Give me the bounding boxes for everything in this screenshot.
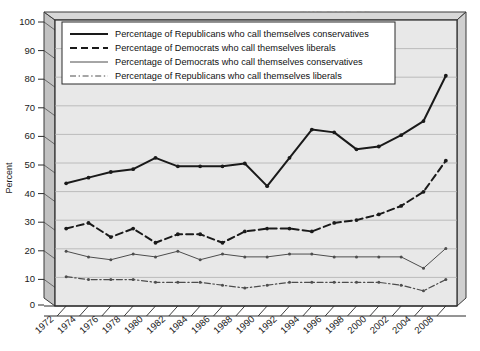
data-point — [355, 218, 359, 222]
frame-right-face — [457, 12, 466, 306]
data-point — [87, 278, 90, 281]
x-tick-label: 1992 — [256, 313, 279, 335]
data-point — [176, 281, 179, 284]
x-tick-mark — [258, 306, 267, 316]
y-tick-label: 10 — [24, 273, 35, 284]
x-tick-label: 1998 — [323, 313, 346, 335]
data-point — [154, 156, 158, 160]
x-tick-label: 1974 — [55, 313, 78, 335]
x-tick-mark — [57, 306, 66, 316]
data-point — [109, 278, 112, 281]
x-tick-label: 1988 — [211, 313, 234, 335]
data-point — [422, 289, 425, 292]
data-point — [109, 258, 112, 261]
data-point — [64, 181, 68, 185]
x-tick-mark — [392, 306, 401, 316]
data-point — [399, 133, 403, 137]
data-point — [400, 284, 403, 287]
data-point — [87, 221, 91, 225]
y-tick-label: 20 — [24, 245, 35, 256]
data-point — [87, 255, 90, 258]
x-tick-mark — [80, 306, 89, 316]
data-point — [355, 147, 359, 151]
data-point — [154, 255, 157, 258]
data-point — [221, 164, 225, 168]
x-tick-label: 1978 — [99, 313, 122, 335]
data-point — [377, 213, 381, 217]
data-point — [444, 74, 448, 78]
y-tick-label: 100 — [19, 16, 35, 27]
x-tick-label: 1982 — [144, 313, 167, 335]
data-point — [444, 278, 447, 281]
data-point — [154, 241, 158, 245]
data-point — [288, 281, 291, 284]
data-point — [154, 281, 157, 284]
data-point — [310, 230, 314, 234]
y-tick-marks — [38, 22, 44, 305]
x-tick-mark — [348, 306, 357, 316]
x-tick-label: 1996 — [300, 313, 323, 335]
data-point — [310, 281, 313, 284]
data-point — [355, 255, 358, 258]
y-tick-label: 40 — [24, 188, 35, 199]
data-point — [400, 255, 403, 258]
y-tick-label: 50 — [24, 159, 35, 170]
data-point — [422, 119, 426, 123]
x-tick-label: 1976 — [77, 313, 100, 335]
data-point — [243, 255, 246, 258]
data-point — [422, 190, 426, 194]
legend-label: Percentage of Democrats who call themsel… — [115, 43, 336, 53]
frame-left-face — [44, 12, 55, 306]
data-point — [243, 162, 247, 166]
data-point — [310, 253, 313, 256]
y-tick-labels: 100 90 80 70 60 50 40 30 20 10 0 — [19, 16, 35, 310]
data-point — [355, 281, 358, 284]
x-tick-mark — [214, 306, 223, 316]
y-tick-label: 80 — [24, 73, 35, 84]
x-tick-mark — [370, 306, 379, 316]
y-tick-label: 30 — [24, 216, 35, 227]
data-point — [266, 284, 269, 287]
data-point — [131, 167, 135, 171]
x-tick-labels: 1972197419761978198019821984198619881990… — [32, 313, 435, 335]
y-tick-label: 0 — [30, 299, 35, 310]
data-point — [198, 164, 202, 168]
x-tick-label: 1994 — [278, 313, 301, 335]
x-tick-mark — [124, 306, 133, 316]
legend-label: Percentage of Democrats who call themsel… — [115, 57, 363, 67]
data-point — [333, 281, 336, 284]
x-tick-label: 1972 — [32, 313, 55, 335]
x-tick-label: 2002 — [367, 313, 390, 335]
x-tick-label: 2004 — [390, 313, 413, 335]
x-tick-mark — [325, 306, 334, 316]
figure-container: THE RISE OF POLITICAL POLARIZATION party… — [0, 0, 480, 351]
x-tick-mark — [415, 306, 424, 316]
x-tick-mark — [102, 306, 111, 316]
x-tick-mark — [437, 306, 446, 316]
x-tick-mark — [147, 306, 156, 316]
data-point — [221, 241, 225, 245]
data-point — [109, 170, 113, 174]
data-point — [377, 281, 380, 284]
data-point — [221, 253, 224, 256]
data-point — [131, 227, 135, 231]
data-point — [332, 130, 336, 134]
legend-label: Percentage of Republicans who call thems… — [115, 71, 342, 81]
y-tick-label: 70 — [24, 102, 35, 113]
data-point — [65, 275, 68, 278]
x-tick-label: 1986 — [189, 313, 212, 335]
data-point — [266, 255, 269, 258]
data-point — [377, 255, 380, 258]
data-point — [310, 128, 314, 132]
data-point — [265, 184, 269, 188]
x-tick-mark — [281, 306, 290, 316]
y-tick-label: 60 — [24, 130, 35, 141]
data-point — [444, 247, 447, 250]
data-point — [243, 287, 246, 290]
data-point — [199, 258, 202, 261]
data-point — [132, 253, 135, 256]
x-tick-label: 2000 — [345, 313, 368, 335]
data-point — [288, 156, 292, 160]
data-point — [377, 145, 381, 149]
data-point — [444, 159, 448, 163]
